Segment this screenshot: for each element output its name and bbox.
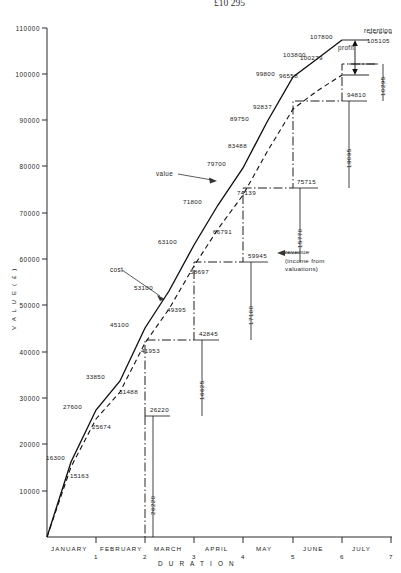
- x-axis-ticks: [96, 537, 391, 543]
- y-tick-label: 30000: [0, 395, 40, 402]
- revenue-annotation-line1: revenue: [285, 248, 325, 257]
- cost-data-label: 15163: [70, 473, 89, 479]
- x-month-label-march: MARCH: [154, 545, 182, 552]
- value-data-label: 63100: [158, 239, 177, 245]
- revenue-annotation: revenue (income from valuations): [285, 248, 325, 274]
- y-axis-ticks: [42, 28, 47, 491]
- y-tick-label: 70000: [0, 210, 40, 217]
- y-tick-label: 50000: [0, 302, 40, 309]
- value-data-label: 99800: [256, 71, 275, 77]
- revenue-step-label: 26220: [150, 407, 169, 413]
- y-tick-label: 100000: [0, 71, 40, 78]
- cost-curve: [47, 75, 342, 537]
- revenue-step-label: 94810: [347, 92, 366, 98]
- cost-data-label: 58697: [190, 269, 209, 275]
- x-tick-number: 4: [241, 553, 244, 560]
- cost-data-label: 83488: [228, 143, 247, 149]
- x-tick-number: 5: [291, 553, 294, 560]
- gap-label: 16625: [198, 380, 205, 400]
- cost-data-label: 74139: [237, 190, 256, 196]
- value-data-label: 79700: [207, 161, 226, 167]
- value-curve: [47, 40, 342, 537]
- y-tick-label: 110000: [0, 25, 40, 32]
- value-data-label: 27600: [63, 404, 82, 410]
- cost-data-label: 66791: [213, 229, 232, 235]
- retention-annotation: retention: [364, 27, 392, 34]
- profit-annotation: profit: [338, 44, 354, 51]
- y-tick-label: 60000: [0, 256, 40, 263]
- value-data-label: 45100: [110, 322, 129, 328]
- revenue-step-line: [145, 64, 375, 416]
- x-tick-number: 6: [340, 553, 343, 560]
- y-tick-label: 40000: [0, 349, 40, 356]
- retention-value-label: 105105: [367, 38, 390, 44]
- cost-data-label: 25674: [92, 424, 111, 430]
- cost-data-label: 100279: [300, 55, 323, 61]
- gap-label: 10295: [379, 76, 386, 96]
- gap-label: 19095: [345, 148, 352, 168]
- value-data-label: 53100: [134, 285, 153, 291]
- x-tick-number: 7: [389, 553, 392, 560]
- cost-data-label: 96558: [279, 73, 298, 79]
- x-tick-number: 2: [143, 553, 146, 560]
- y-tick-label: 80000: [0, 163, 40, 170]
- revenue-step-label: 59945: [248, 253, 267, 259]
- y-tick-label: 20000: [0, 441, 40, 448]
- x-month-label-june: JUNE: [303, 545, 324, 552]
- y-axis-title: V A L U E ( £ ): [10, 267, 17, 330]
- x-tick-number: 3: [192, 553, 195, 560]
- cost-series-annotation: cost: [110, 266, 123, 273]
- y-tick-label: 90000: [0, 117, 40, 124]
- value-data-label: 16300: [46, 455, 65, 461]
- gap-measure-lines: [153, 64, 383, 537]
- revenue-step-label: 75715: [297, 179, 316, 185]
- cost-data-label: 92837: [253, 104, 272, 110]
- chart-canvas: [0, 0, 401, 573]
- value-data-label: 89750: [230, 116, 249, 122]
- gap-label: 15770: [296, 228, 303, 248]
- cost-data-label: 31488: [119, 389, 138, 395]
- cost-data-label: 41953: [141, 348, 160, 354]
- value-data-label: 33850: [86, 374, 105, 380]
- revenue-annotation-line2: (income from: [285, 257, 325, 266]
- gap-label: 17100: [247, 305, 254, 325]
- gap-label: 26220: [149, 495, 156, 515]
- x-axis-title: D U R A T I O N: [158, 560, 236, 567]
- cashflow-chart: £10 295 V A L U E ( £ ) D U R A T I O N …: [0, 0, 401, 573]
- x-month-label-july: JULY: [352, 545, 371, 552]
- value-data-label: 71800: [183, 199, 202, 205]
- value-series-annotation: value: [156, 170, 173, 177]
- headline-total: £10 295: [214, 0, 245, 8]
- revenue-step-label: 42845: [199, 331, 218, 337]
- y-tick-label: 10000: [0, 488, 40, 495]
- x-month-label-may: MAY: [256, 545, 272, 552]
- x-tick-number: 1: [94, 553, 97, 560]
- value-data-label: 107800: [310, 34, 333, 40]
- x-month-label-april: APRIL: [205, 545, 228, 552]
- x-month-label-january: JANUARY: [51, 545, 87, 552]
- cost-data-label: 49395: [167, 307, 186, 313]
- value-annotation-leader: [178, 174, 217, 184]
- revenue-annotation-line3: valuations): [285, 265, 325, 274]
- step-leader-ticks: [145, 64, 378, 416]
- x-month-label-february: FEBRUARY: [100, 545, 142, 552]
